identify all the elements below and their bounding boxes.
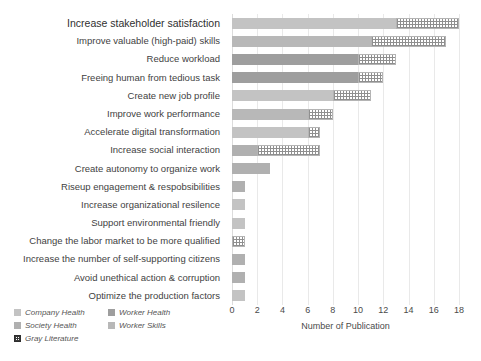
bar-row [232, 69, 383, 87]
bar-stack [232, 254, 245, 265]
bar-stack [232, 272, 245, 283]
bar-row [232, 14, 459, 32]
bar-row [232, 87, 371, 105]
bar-stack [232, 145, 320, 156]
legend-label-worker-health: Worker Health [119, 308, 170, 317]
worker-skills-swatch [108, 322, 115, 329]
bar-row [232, 32, 446, 50]
bar-stack [232, 199, 245, 210]
x-tick-label-2: 2 [255, 305, 260, 315]
bar-segment-company-health [232, 90, 333, 101]
category-label: Avoid unethical action & corruption [74, 269, 220, 287]
x-tick-label-10: 10 [353, 305, 363, 315]
category-axis-labels: Increase stakeholder satisfactionImprove… [0, 14, 226, 305]
bar-row [232, 178, 245, 196]
legend-label-gray-literature: Gray Literature [25, 334, 78, 343]
category-label: Reduce workload [147, 50, 220, 68]
x-tick-label-14: 14 [404, 305, 414, 315]
bar-stack [232, 127, 320, 138]
legend-item-gray-literature: Gray Literature [14, 334, 78, 343]
bar-segment-gray-literature [358, 54, 396, 65]
bar-stack [232, 18, 459, 29]
bar-segment-society-health [232, 272, 245, 283]
bar-segment-gray-literature [308, 109, 333, 120]
bar-stack [232, 36, 446, 47]
bar-row [232, 269, 245, 287]
bar-segment-gray-literature [308, 127, 321, 138]
x-tick-label-8: 8 [330, 305, 335, 315]
x-tick-label-4: 4 [280, 305, 285, 315]
category-label: Change the labor market to be more quali… [29, 232, 220, 250]
bar-segment-gray-literature [371, 36, 447, 47]
society-health-swatch [14, 322, 21, 329]
legend-row-1: Company Health Worker Health [14, 307, 214, 318]
company-health-swatch [14, 309, 21, 316]
category-label: Create autonomy to organize work [75, 160, 220, 178]
category-label: Increase the number of self-supporting c… [23, 250, 220, 268]
bar-stack [232, 236, 245, 247]
bar-segment-gray-literature [232, 236, 245, 247]
category-label: Increase organizational resilence [81, 196, 220, 214]
bar-row [232, 250, 245, 268]
category-label: Accelerate digital transformation [84, 123, 220, 141]
x-tick-label-6: 6 [305, 305, 310, 315]
legend-item-worker-skills: Worker Skills [108, 321, 166, 330]
bar-row [232, 105, 333, 123]
category-label: Support environmental friendly [91, 214, 220, 232]
bar-stack [232, 72, 383, 83]
category-label: Improve work performance [107, 105, 220, 123]
x-axis-title: Number of Publication [232, 321, 459, 331]
bar-stack [232, 54, 396, 65]
bar-segment-company-health [232, 18, 396, 29]
bar-segment-worker-health [232, 72, 358, 83]
horizontal-bar-chart: Increase stakeholder satisfactionImprove… [0, 0, 481, 361]
bar-stack [232, 90, 371, 101]
chart-legend: Company Health Worker Health Society Hea… [14, 307, 214, 346]
bar-segment-society-health [232, 254, 245, 265]
legend-item-society-health: Society Health [14, 321, 98, 330]
category-label: Create new job profile [128, 87, 220, 105]
bar-row [232, 214, 245, 232]
bar-segment-worker-health [232, 54, 358, 65]
bar-segment-society-health [232, 163, 270, 174]
bar-segment-company-health [232, 218, 245, 229]
category-label: Optimize the production factors [89, 287, 220, 305]
category-label: Improve valuable (high-paid) skills [76, 32, 220, 50]
legend-row-3: Gray Literature [14, 333, 214, 344]
category-label: Increase stakeholder satisfaction [67, 14, 220, 32]
bar-row [232, 141, 320, 159]
x-tick-label-12: 12 [378, 305, 388, 315]
legend-row-2: Society Health Worker Skills [14, 320, 214, 331]
bar-segment-company-health [232, 127, 308, 138]
legend-item-company-health: Company Health [14, 308, 98, 317]
legend-label-society-health: Society Health [25, 321, 77, 330]
bar-segment-worker-skills [232, 36, 371, 47]
x-tick-label-0: 0 [229, 305, 234, 315]
bar-stack [232, 181, 245, 192]
bar-row [232, 160, 270, 178]
bar-stack [232, 109, 333, 120]
bar-segment-society-health [232, 181, 245, 192]
bar-row [232, 123, 320, 141]
x-axis-ticks: 024681012141618 [232, 305, 459, 321]
gridline-18 [459, 14, 460, 305]
bar-segment-company-health [232, 199, 245, 210]
worker-health-swatch [108, 309, 115, 316]
legend-label-company-health: Company Health [25, 308, 85, 317]
bar-segment-worker-skills [232, 109, 308, 120]
bar-stack [232, 290, 245, 301]
bar-row [232, 232, 245, 250]
legend-label-worker-skills: Worker Skills [119, 321, 166, 330]
x-tick-label-16: 16 [429, 305, 439, 315]
bar-row [232, 50, 396, 68]
bar-stack [232, 163, 270, 174]
bar-segment-gray-literature [333, 90, 371, 101]
category-label: Increase social interaction [110, 141, 220, 159]
plot-area [232, 14, 459, 305]
bar-segment-gray-literature [358, 72, 383, 83]
bar-rows [232, 14, 459, 305]
bar-segment-gray-literature [396, 18, 459, 29]
legend-item-worker-health: Worker Health [108, 308, 170, 317]
bar-segment-gray-literature [257, 145, 320, 156]
x-tick-label-18: 18 [454, 305, 464, 315]
